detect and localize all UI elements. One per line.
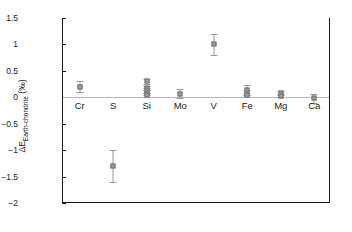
error-bar-cap-lower [177,98,184,99]
x-axis-label-v: V [211,100,217,111]
error-bar-cap-upper [110,150,117,151]
y-axis-tick-label: 0.5 [0,66,18,76]
figure: ΔEEarth-chondrite (‰) 1.510.50−0.5−1−1.5… [0,0,352,232]
y-axis-tick-label: −1.5 [0,172,18,182]
y-axis-tick-mark [62,203,66,204]
y-axis-label-subscript: Earth-chondrite [22,96,29,141]
error-bar-cap-lower [110,182,117,183]
data-point-marker [77,84,82,89]
x-axis-label-cr: Cr [75,100,85,111]
plot-area: CrSSiMoVFeMgCa [62,18,330,203]
error-bar-cap-upper [210,34,217,35]
data-point-marker [245,93,250,98]
data-point-marker [178,91,183,96]
x-axis-label-fe: Fe [242,100,253,111]
error-bar-cap-lower [76,92,83,93]
zero-reference-line [63,97,329,98]
data-point-marker [211,42,216,47]
y-axis-tick-label: −2 [0,198,18,208]
error-bar-cap-upper [177,89,184,90]
data-point-marker [144,79,149,84]
x-axis-label-mo: Mo [174,100,187,111]
y-axis-tick-label: 0 [0,92,18,102]
y-axis-label-unit: (‰) [17,80,27,94]
y-axis-tick-label: −0.5 [0,119,18,129]
error-bar-cap-lower [210,55,217,56]
y-axis-label: ΔEEarth-chondrite (‰) [17,41,29,191]
x-axis-label-s: S [110,100,116,111]
y-axis-tick-label: 1.5 [0,13,18,23]
y-axis-tick-label: 1 [0,39,18,49]
x-axis-label-ca: Ca [308,100,320,111]
data-point-marker [111,164,116,169]
error-bar-cap-upper [244,85,251,86]
data-point-marker [278,93,283,98]
error-bar-cap-upper [76,81,83,82]
y-axis-label-main: ΔE [17,141,27,152]
x-axis-label-si: Si [143,100,151,111]
y-axis-tick-label: −1 [0,145,18,155]
data-point-marker [144,93,149,98]
x-axis-label-mg: Mg [274,100,287,111]
